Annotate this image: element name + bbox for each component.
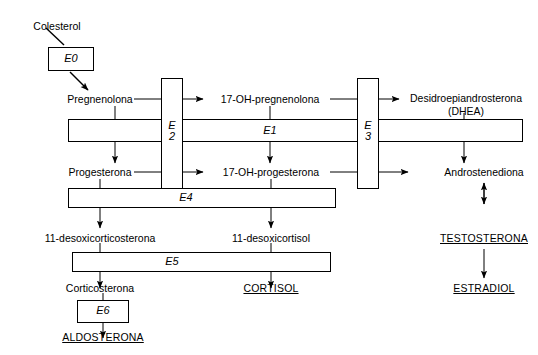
metabolite-dhea: Desidroepiandrosterona (DHEA) (410, 92, 522, 117)
metabolite-11-desoxicorticosterona: 11-desoxicorticosterona (45, 232, 156, 244)
enzyme-bar-e1-left (69, 120, 162, 142)
metabolite-dhea-line2: (DHEA) (410, 105, 522, 118)
enzyme-label-e0: E0 (64, 53, 77, 65)
enzyme-label-e2: E 2 (168, 120, 175, 142)
metabolite-17oh-progesterona: 17-OH-progesterona (223, 166, 319, 178)
enzyme-label-e3-line2: 3 (364, 131, 371, 142)
metabolite-androstenediona: Androstenediona (444, 166, 523, 178)
enzyme-bar-e5 (73, 253, 331, 272)
metabolite-17oh-pregnenolona: 17-OH-pregnenolona (221, 93, 320, 105)
enzyme-label-e2-line2: 2 (168, 131, 175, 142)
metabolite-dhea-line1: Desidroepiandrosterona (410, 92, 522, 105)
enzyme-label-e1: E1 (263, 125, 276, 137)
enzyme-bar-e1-right (379, 120, 523, 142)
metabolite-cortisol: CORTISOL (243, 282, 298, 294)
metabolite-colesterol: Colesterol (33, 20, 80, 32)
metabolite-testosterona: TESTOSTERONA (440, 232, 528, 244)
enzyme-label-e3: E 3 (364, 120, 371, 142)
metabolite-aldosterona: ALDOSTERONA (62, 331, 144, 343)
metabolite-corticosterona: Corticosterona (66, 282, 134, 294)
metabolite-11-desoxicortisol: 11-desoxicortisol (232, 232, 310, 244)
metabolite-progesterona: Progesterona (68, 166, 131, 178)
steroidogenesis-diagram: Colesterol Pregnenolona 17-OH-pregnenolo… (0, 0, 538, 355)
enzyme-label-e4: E4 (179, 192, 192, 204)
metabolite-pregnenolona: Pregnenolona (67, 93, 132, 105)
arrow-e0-to-pregnenolona (70, 72, 88, 90)
metabolite-estradiol: ESTRADIOL (453, 282, 514, 294)
enzyme-bar-e4 (69, 189, 336, 208)
enzyme-label-e6: E6 (96, 305, 109, 317)
enzyme-label-e5: E5 (165, 256, 178, 268)
